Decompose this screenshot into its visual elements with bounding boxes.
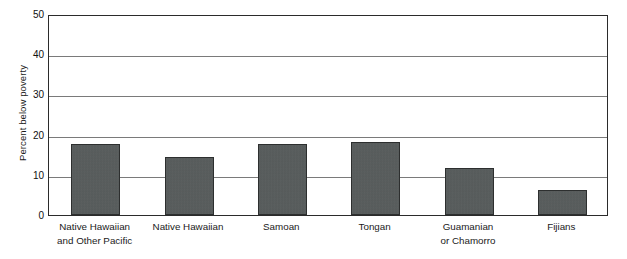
bar [445, 168, 494, 215]
y-tick-label: 30 [22, 90, 44, 100]
bar [258, 144, 307, 215]
bar [71, 144, 120, 215]
y-tick-label: 50 [22, 10, 44, 20]
bar-chart: Percent below poverty 01020304050 Native… [0, 0, 627, 259]
bar [165, 157, 214, 215]
x-axis-label-line: Fijians [507, 220, 616, 234]
x-axis-category-labels: Native Hawaiianand Other PacificNative H… [48, 220, 608, 259]
y-tick-label: 10 [22, 171, 44, 181]
x-axis-label-line: and Other Pacific [40, 234, 149, 248]
bar [538, 190, 587, 215]
plot-area [48, 15, 608, 216]
y-tick-label: 40 [22, 50, 44, 60]
y-tick-label: 20 [22, 131, 44, 141]
x-axis-label: Fijians [507, 220, 616, 234]
bar [351, 142, 400, 215]
bars-group [49, 16, 607, 215]
x-axis-label-line: or Chamorro [413, 234, 522, 248]
